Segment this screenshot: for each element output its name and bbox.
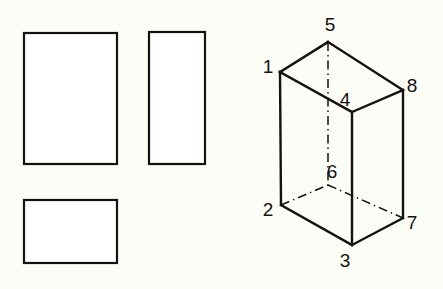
- front-view: [24, 33, 117, 164]
- vertex-label-1: 1: [263, 56, 274, 77]
- edge-1-2: [280, 72, 281, 205]
- vertex-label-6: 6: [327, 161, 338, 182]
- top-view: [24, 200, 117, 263]
- edge-3-7: [352, 218, 403, 245]
- drawing-canvas: 12345678: [0, 0, 443, 289]
- edge-1-5: [280, 42, 328, 72]
- vertex-label-5: 5: [325, 14, 336, 35]
- edge-2-3: [281, 205, 352, 245]
- side-view: [149, 32, 205, 164]
- isometric-solid-edges-group: [280, 42, 403, 245]
- isometric-hidden-edges-group: [281, 42, 403, 218]
- hidden-edge-2-6: [281, 185, 328, 205]
- vertex-label-3: 3: [340, 250, 351, 271]
- technical-drawing-figure: 12345678: [0, 0, 443, 289]
- vertex-label-7: 7: [407, 212, 418, 233]
- hidden-edge-6-7: [328, 185, 403, 218]
- vertex-label-4: 4: [340, 89, 351, 110]
- vertex-label-8: 8: [407, 75, 418, 96]
- edge-4-8: [352, 90, 403, 112]
- orthographic-views-group: [24, 32, 205, 263]
- edge-5-8: [328, 42, 403, 90]
- vertex-labels-group: 12345678: [263, 14, 418, 271]
- vertex-label-2: 2: [263, 199, 274, 220]
